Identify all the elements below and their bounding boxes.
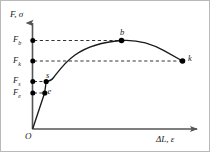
curve-point-k xyxy=(180,58,186,64)
y-tick-label-fs: Fs xyxy=(13,76,21,87)
axis-dot-fs xyxy=(30,79,35,84)
origin-label: O xyxy=(25,132,32,141)
stress-strain-figure: F, σ ΔL, ε O Fb Fk Fs Fe s e b k xyxy=(0,0,210,152)
y-tick-sub-fe: e xyxy=(18,92,21,98)
y-tick-sub-fb: b xyxy=(18,40,21,46)
axis-dot-fk xyxy=(30,59,35,64)
point-label-k: k xyxy=(188,54,192,63)
point-label-e: e xyxy=(48,87,52,96)
x-axis-title: ΔL, ε xyxy=(156,135,174,144)
curve-point-b xyxy=(119,38,125,44)
point-label-b: b xyxy=(120,28,124,37)
plot-canvas xyxy=(1,1,210,152)
axis-dot-fe xyxy=(30,91,35,96)
force-elongation-curve xyxy=(33,40,183,128)
axis-dot-fb xyxy=(30,38,35,43)
point-label-s: s xyxy=(46,71,49,80)
y-tick-label-fk: Fk xyxy=(13,56,21,67)
y-tick-label-fe: Fe xyxy=(13,88,21,99)
y-tick-sub-fs: s xyxy=(18,81,20,87)
y-axis-title: F, σ xyxy=(10,10,23,19)
y-tick-label-fb: Fb xyxy=(13,35,21,46)
y-tick-sub-fk: k xyxy=(18,60,21,66)
